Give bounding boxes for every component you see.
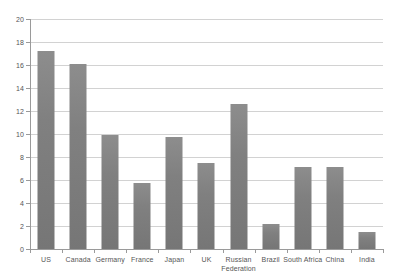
- bars-layer: [30, 19, 383, 249]
- x-axis-tick-mark: [223, 249, 224, 253]
- x-axis-tick-mark: [351, 249, 352, 253]
- bar-slot: [223, 19, 255, 249]
- x-axis-tick-label: India: [345, 256, 389, 265]
- y-axis-tick-label: 0: [0, 246, 24, 253]
- bar[interactable]: [70, 64, 87, 249]
- y-axis-tick-label: 2: [0, 223, 24, 230]
- bar[interactable]: [294, 167, 311, 249]
- y-axis-tick-label: 16: [0, 62, 24, 69]
- bar-slot: [319, 19, 351, 249]
- bar-chart: 20181614121086420 USCanadaGermanyFranceJ…: [0, 0, 396, 278]
- y-axis-tick-label: 12: [0, 108, 24, 115]
- x-axis-tick-mark: [190, 249, 191, 253]
- bar[interactable]: [326, 167, 343, 249]
- x-axis-tick-mark: [30, 249, 31, 253]
- bar[interactable]: [262, 224, 279, 249]
- bar[interactable]: [38, 51, 55, 249]
- y-axis-tick-label: 10: [0, 131, 24, 138]
- bar-slot: [62, 19, 94, 249]
- x-axis-tick-mark: [287, 249, 288, 253]
- x-axis-tick-mark: [94, 249, 95, 253]
- bar[interactable]: [134, 183, 151, 249]
- bar-slot: [190, 19, 222, 249]
- y-axis-tick-label: 20: [0, 16, 24, 23]
- y-axis-tick-label: 18: [0, 39, 24, 46]
- bar[interactable]: [230, 104, 247, 249]
- x-axis-tick-mark: [383, 249, 384, 253]
- x-axis-tick-mark: [126, 249, 127, 253]
- y-axis-tick-label: 14: [0, 85, 24, 92]
- x-axis-tick-mark: [319, 249, 320, 253]
- x-axis-tick-mark: [255, 249, 256, 253]
- bar[interactable]: [198, 163, 215, 249]
- y-axis-tick-label: 6: [0, 177, 24, 184]
- axis-baseline: [30, 249, 383, 250]
- x-axis-tick-mark: [158, 249, 159, 253]
- y-axis-tick-label: 4: [0, 200, 24, 207]
- bar-slot: [30, 19, 62, 249]
- bar-slot: [126, 19, 158, 249]
- bar-slot: [351, 19, 383, 249]
- bar-slot: [94, 19, 126, 249]
- bar-slot: [255, 19, 287, 249]
- y-axis-tick-label: 8: [0, 154, 24, 161]
- bar-slot: [158, 19, 190, 249]
- bar[interactable]: [102, 135, 119, 249]
- x-axis-tick-mark: [62, 249, 63, 253]
- bar[interactable]: [166, 137, 183, 249]
- bar[interactable]: [358, 232, 375, 249]
- bar-slot: [287, 19, 319, 249]
